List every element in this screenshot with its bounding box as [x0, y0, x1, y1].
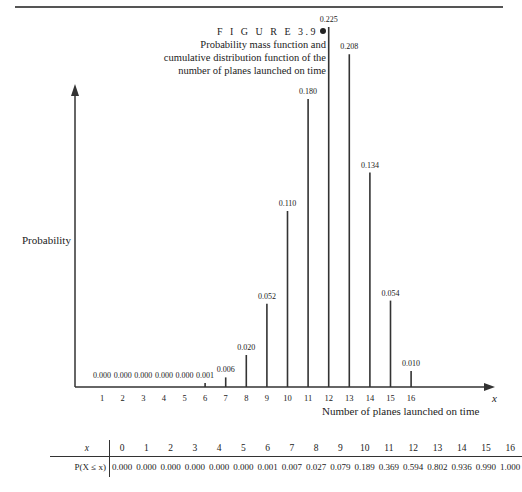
bar-value-label: 0.134 — [361, 161, 379, 170]
bar-value-label: 0.006 — [217, 365, 235, 374]
x-tick-label: 7 — [224, 393, 228, 403]
y-axis-label: Probability — [22, 234, 71, 246]
bar-value-label: 0.010 — [402, 359, 420, 368]
cdf-x-label: x — [50, 440, 110, 457]
bar-value-label: 0.000 — [176, 371, 194, 380]
cdf-p-cell: 0.000 — [159, 457, 183, 478]
cdf-x-cell: 11 — [377, 440, 401, 457]
cdf-p-cell: 0.027 — [304, 457, 328, 478]
bar-value-label: 0.052 — [258, 292, 276, 301]
cdf-p-cell: 0.000 — [110, 457, 135, 478]
y-axis-arrow-icon — [71, 84, 79, 96]
x-axis-arrow-icon — [484, 383, 495, 391]
x-tick-label: 1 — [100, 393, 104, 403]
cdf-x-cell: 13 — [425, 440, 449, 457]
cdf-p-cell: 0.369 — [377, 457, 401, 478]
x-tick-label: 2 — [121, 393, 125, 403]
cdf-p-cell: 0.189 — [353, 457, 377, 478]
cdf-table: x 012345678910111213141516 P(X ≤ x) 0.00… — [50, 440, 522, 477]
cdf-x-cell: 10 — [353, 440, 377, 457]
cdf-p-cell: 0.000 — [231, 457, 255, 478]
bar-value-label: 0.020 — [237, 343, 255, 352]
cdf-x-cell: 6 — [256, 440, 280, 457]
cdf-p-cell: 0.000 — [207, 457, 231, 478]
bar-value-label: 0.054 — [382, 289, 400, 298]
bar-value-label: 0.000 — [93, 371, 111, 380]
cdf-x-cell: 16 — [498, 440, 522, 457]
cdf-p-cell: 0.007 — [280, 457, 304, 478]
cdf-p-label: P(X ≤ x) — [50, 457, 110, 478]
bar-value-label: 0.110 — [279, 199, 297, 208]
x-axis-symbol: x — [491, 392, 497, 404]
cdf-x-cell: 8 — [304, 440, 328, 457]
cdf-p-cell: 0.936 — [450, 457, 474, 478]
bar-value-label: 0.000 — [114, 371, 132, 380]
bar-value-label: 0.225 — [320, 15, 338, 24]
x-tick-label: 15 — [386, 393, 395, 403]
x-tick-label: 9 — [265, 393, 269, 403]
x-tick-label: 12 — [324, 393, 333, 403]
cdf-x-cell: 1 — [134, 440, 158, 457]
cdf-x-cell: 4 — [207, 440, 231, 457]
cdf-p-cell: 0.000 — [183, 457, 207, 478]
x-tick-label: 16 — [407, 393, 416, 403]
cdf-x-cell: 14 — [450, 440, 474, 457]
cdf-x-cell: 0 — [110, 440, 135, 457]
cdf-x-cell: 3 — [183, 440, 207, 457]
bar-value-label: 0.000 — [155, 371, 173, 380]
cdf-p-cell: 1.000 — [498, 457, 522, 478]
cdf-p-row: P(X ≤ x) 0.0000.0000.0000.0000.0000.0000… — [50, 457, 522, 478]
bar-value-label: 0.208 — [340, 42, 358, 51]
cdf-p-cell: 0.594 — [401, 457, 425, 478]
x-tick-label: 3 — [141, 393, 145, 403]
cdf-x-cell: 5 — [231, 440, 255, 457]
cdf-x-cell: 9 — [328, 440, 352, 457]
x-tick-label: 4 — [162, 393, 167, 403]
x-tick-label: 14 — [366, 393, 375, 403]
cdf-x-row: x 012345678910111213141516 — [50, 440, 522, 457]
chart-axes: x — [71, 84, 497, 404]
bar-value-label: 0.001 — [196, 371, 214, 380]
cdf-x-cell: 2 — [159, 440, 183, 457]
x-tick-label: 13 — [345, 393, 354, 403]
cdf-p-cell: 0.990 — [474, 457, 498, 478]
cdf-p-cell: 0.000 — [134, 457, 158, 478]
bar-value-label: 0.000 — [134, 371, 152, 380]
cdf-p-cell: 0.802 — [425, 457, 449, 478]
pmf-bars: 0.00010.00020.00030.00040.00050.00160.00… — [93, 15, 420, 403]
x-tick-label: 11 — [304, 393, 312, 403]
x-tick-label: 6 — [203, 393, 207, 403]
x-axis-label: Number of planes launched on time — [322, 405, 479, 417]
x-tick-label: 8 — [244, 393, 248, 403]
cdf-x-cell: 12 — [401, 440, 425, 457]
cdf-p-cell: 0.079 — [328, 457, 352, 478]
cdf-x-cell: 7 — [280, 440, 304, 457]
cdf-x-cell: 15 — [474, 440, 498, 457]
x-tick-label: 5 — [182, 393, 186, 403]
x-tick-label: 10 — [283, 393, 292, 403]
cdf-p-cell: 0.001 — [256, 457, 280, 478]
bar-value-label: 0.180 — [299, 87, 317, 96]
